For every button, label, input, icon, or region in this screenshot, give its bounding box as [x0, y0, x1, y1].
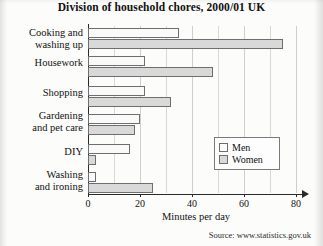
bar-men-shopping — [88, 86, 145, 96]
scanned-page: Division of household chores, 2000/01 UK… — [0, 0, 323, 246]
category-label-line: Housework — [0, 57, 83, 69]
category-label-line: and pet care — [0, 122, 83, 134]
category-label-gardening: Gardening and pet care — [0, 110, 83, 133]
bar-women-diy — [88, 155, 96, 165]
x-axis-line — [88, 194, 304, 195]
x-tick — [192, 194, 193, 197]
category-label-line: Cooking and — [0, 27, 83, 39]
bar-women-washing — [88, 183, 153, 193]
legend-item-women: Women — [219, 153, 275, 165]
gridline — [166, 26, 167, 193]
gridline — [114, 26, 115, 193]
chart-title: Division of household chores, 2000/01 UK — [0, 1, 323, 13]
x-tick-label: 40 — [177, 198, 207, 209]
y-axis-line — [88, 24, 89, 195]
x-tick-label: 0 — [73, 198, 103, 209]
bar-men-cooking — [88, 28, 179, 38]
category-label-line: and ironing — [0, 181, 83, 193]
bar-men-gardening — [88, 114, 140, 124]
bar-men-washing — [88, 172, 96, 182]
gridline — [192, 26, 193, 193]
x-tick — [140, 194, 141, 197]
x-axis-arrow-icon — [302, 190, 309, 198]
gridline — [296, 26, 297, 193]
category-label-line: washing up — [0, 39, 83, 51]
bar-women-cooking — [88, 39, 283, 49]
legend: Men Women — [214, 137, 280, 170]
source-note: Source: www.statistics.gov.uk — [0, 230, 311, 240]
x-tick-label: 80 — [281, 198, 311, 209]
category-label-washing: Washing and ironing — [0, 169, 83, 192]
x-tick-label: 60 — [229, 198, 259, 209]
legend-swatch-women-icon — [219, 155, 228, 164]
legend-item-men: Men — [219, 141, 275, 153]
category-label-line: Washing — [0, 169, 83, 181]
bar-women-gardening — [88, 125, 135, 135]
x-tick — [296, 194, 297, 197]
bar-men-housework — [88, 56, 145, 66]
x-tick — [88, 194, 89, 197]
category-label-diy: DIY — [0, 146, 83, 158]
category-label-housework: Housework — [0, 57, 83, 69]
x-tick — [244, 194, 245, 197]
x-axis-label: Minutes per day — [88, 211, 304, 222]
bar-women-shopping — [88, 97, 171, 107]
category-label-line: Shopping — [0, 87, 83, 99]
legend-label-women: Women — [232, 154, 263, 165]
category-label-cooking: Cooking and washing up — [0, 27, 83, 50]
bar-women-housework — [88, 67, 213, 77]
legend-swatch-men-icon — [219, 143, 228, 152]
x-tick-label: 20 — [125, 198, 155, 209]
gridline — [140, 26, 141, 193]
category-label-line: Gardening — [0, 110, 83, 122]
legend-label-men: Men — [232, 142, 250, 153]
category-label-line: DIY — [0, 146, 83, 158]
category-label-shopping: Shopping — [0, 87, 83, 99]
bar-men-diy — [88, 144, 130, 154]
